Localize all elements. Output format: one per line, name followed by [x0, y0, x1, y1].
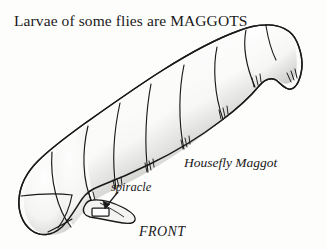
segment-shading	[24, 27, 297, 235]
species-label: Housefly Maggot	[184, 155, 277, 171]
figure-title: Larvae of some flies are MAGGOTS	[14, 12, 247, 30]
figure-page: Larvae of some flies are MAGGOTS Housefl…	[0, 0, 327, 250]
spiracle-label: spiracle	[111, 180, 151, 195]
front-orientation-label: FRONT	[139, 224, 185, 240]
maggot-illustration	[0, 0, 327, 250]
spiracle	[92, 208, 109, 216]
maggot-body	[19, 25, 302, 235]
